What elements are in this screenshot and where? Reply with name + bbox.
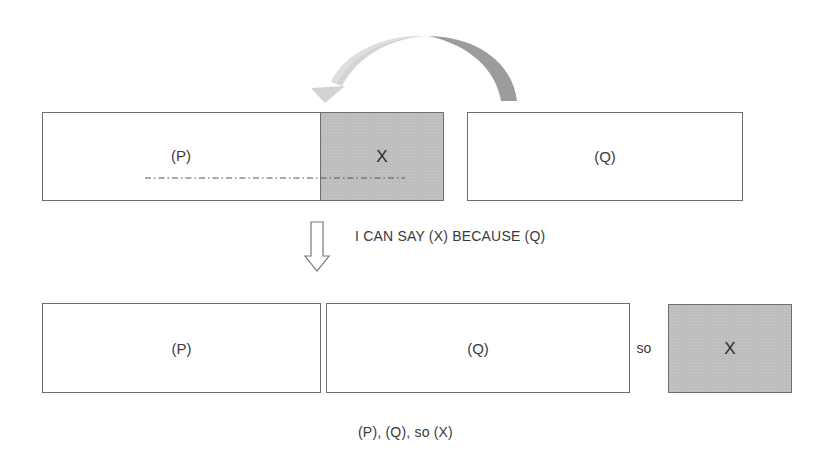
bottom-p-box: (P)	[42, 303, 321, 393]
summary-text: (P), (Q), so (X)	[358, 424, 453, 440]
down-arrow-icon	[305, 222, 329, 271]
bottom-q-label: (Q)	[467, 340, 489, 357]
transition-caption: I CAN SAY (X) BECAUSE (Q)	[355, 228, 545, 244]
bottom-x-box: X	[668, 304, 792, 393]
bottom-q-box: (Q)	[326, 303, 630, 393]
bottom-p-label: (P)	[172, 340, 192, 357]
curved-arrow-icon	[311, 36, 517, 103]
so-connector: so	[624, 340, 664, 356]
bottom-x-label: X	[724, 339, 735, 359]
